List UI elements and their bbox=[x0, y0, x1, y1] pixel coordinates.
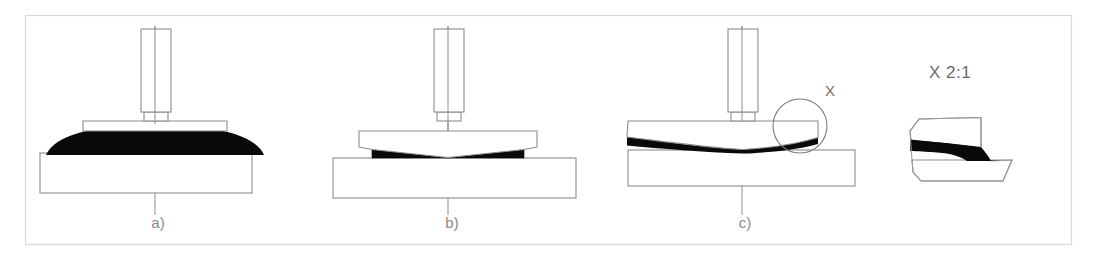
panel-c: X c) bbox=[627, 26, 855, 231]
detail-view-x: X 2:1 bbox=[910, 63, 1012, 181]
punch-tool-c bbox=[728, 29, 758, 112]
panel-b: b) bbox=[333, 26, 576, 231]
panel-label-c: c) bbox=[739, 214, 752, 231]
panel-label-b: b) bbox=[445, 214, 458, 231]
punch-shoulder-b bbox=[437, 112, 461, 121]
panel-label-a: a) bbox=[151, 214, 164, 231]
detail-marker-label-x: X bbox=[825, 82, 835, 99]
base-block-a bbox=[40, 153, 252, 193]
punch-shoulder-a bbox=[144, 112, 168, 121]
technical-figure-root: a) b) bbox=[0, 0, 1094, 259]
punch-shoulder-c bbox=[731, 112, 755, 121]
detail-view-label: X 2:1 bbox=[929, 63, 971, 82]
punch-tool-b bbox=[434, 29, 464, 112]
welding-stages-diagram: a) b) bbox=[0, 0, 1094, 259]
base-block-c bbox=[628, 150, 855, 186]
detail-lower-member bbox=[912, 160, 1012, 181]
punch-tool-a bbox=[141, 29, 171, 112]
panel-a: a) bbox=[40, 26, 264, 231]
base-block-b bbox=[333, 158, 576, 198]
